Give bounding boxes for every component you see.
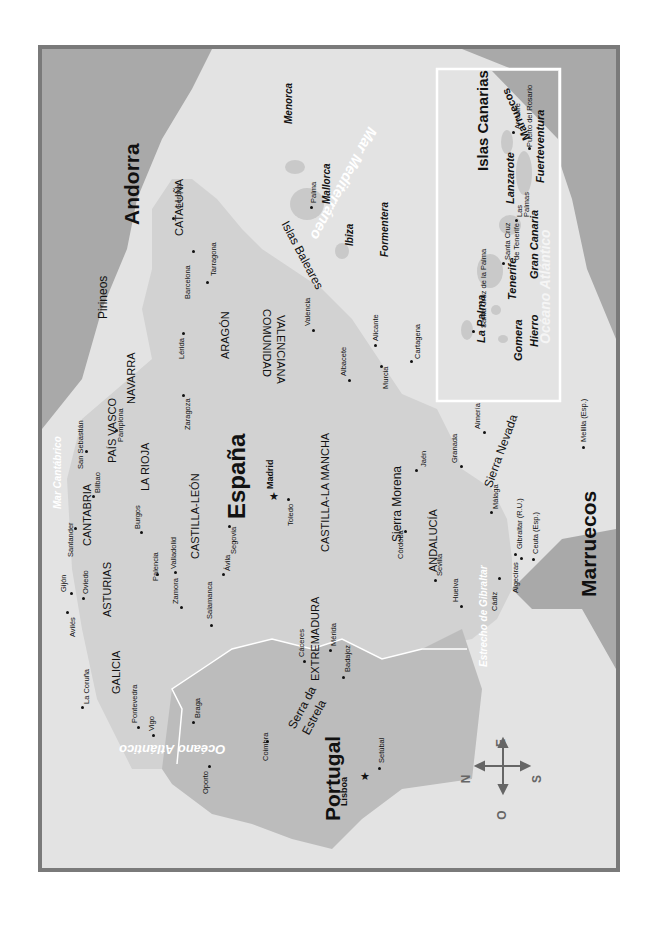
city-label-cadiz: Cádiz	[491, 592, 499, 611]
city-dot-gijon	[70, 592, 73, 595]
city-dot-oporto	[208, 765, 211, 768]
menorca-shape	[285, 160, 305, 174]
city-dot-lerida	[182, 332, 185, 335]
island-label-tenerife: Tenerife	[507, 258, 518, 300]
city-label-algeciras: Algeciras	[512, 562, 520, 593]
city-label-jaen: Jaén	[420, 451, 428, 467]
city-dot-malaga	[490, 511, 493, 514]
city-dot-la-coruna	[81, 706, 84, 709]
region-label-comunidad: COMUNIDAD	[261, 309, 272, 377]
city-label-tarragona: Tarragona	[210, 242, 218, 276]
city-label-cartagena: Cartagena	[414, 324, 422, 359]
compass-label-west: O	[496, 810, 508, 819]
city-dot-pontevedra	[137, 726, 140, 729]
city-label-setubal: Setúbal	[378, 738, 386, 763]
city-label-santa-cruz-tenerife-2: de Tenerife	[513, 223, 521, 260]
city-label-coimbra: Coimbra	[262, 733, 270, 761]
city-label-granada: Granada	[451, 434, 459, 463]
city-dot-almeria	[483, 431, 486, 434]
city-label-san-sebastian: San Sebastián	[77, 420, 85, 469]
city-dot-puerto-rosario	[528, 147, 531, 150]
city-dot-badajoz	[342, 676, 345, 679]
region-label-galicia: GALICIA	[111, 651, 122, 694]
city-dot-oviedo	[82, 597, 85, 600]
city-label-zamora: Zamora	[172, 578, 180, 604]
city-dot-palma	[310, 206, 313, 209]
city-label-lerida: Lérida	[178, 338, 186, 359]
city-dot-santa-cruz-palma	[472, 330, 475, 333]
city-dot-santa-cruz-tenerife	[502, 262, 505, 265]
city-dot-barcelona	[192, 250, 195, 253]
city-label-barcelona: Barcelona	[184, 265, 192, 299]
city-label-salamanca: Salamanca	[206, 581, 214, 619]
city-label-albacete: Albacete	[340, 347, 348, 376]
country-label-andorra: Andorra	[121, 143, 142, 225]
lanzarote-shape	[501, 130, 513, 154]
city-dot-cadiz	[498, 577, 501, 580]
city-dot-las-palmas	[515, 219, 518, 222]
city-dot-albacete	[348, 379, 351, 382]
city-dot-salamanca	[210, 624, 213, 627]
city-label-santa-cruz-palma: Santa Cruz de la Palma	[480, 249, 488, 328]
city-label-huelva: Huelva	[452, 579, 460, 602]
city-label-pamplona: Pamplona	[117, 408, 125, 442]
city-label-la-coruna: La Coruña	[83, 669, 91, 704]
city-label-arrecife: Arrecife	[514, 103, 522, 129]
city-dot-gibraltar	[514, 553, 517, 556]
compass-label-east: E	[495, 739, 507, 747]
city-dot-valladolid	[174, 571, 177, 574]
city-label-cordoba: Córdoba	[397, 530, 405, 559]
city-label-valencia: Valencia	[304, 298, 312, 326]
city-label-puerto-rosario: Puerto del Rosario	[526, 85, 534, 147]
city-dot-caceres	[303, 660, 306, 663]
city-dot-gerona	[172, 217, 175, 220]
city-label-zaragoza: Zaragoza	[184, 398, 192, 430]
compass-rose	[476, 739, 529, 793]
city-label-caceres: Cáceres	[298, 629, 306, 657]
city-dot-valencia	[312, 329, 315, 332]
island-label-gomera: Gomera	[513, 319, 524, 361]
capital-label-madrid: Madrid	[266, 459, 275, 489]
island-label-hierro: Hierro	[529, 315, 540, 347]
region-label-navarra: NAVARRA	[126, 352, 137, 404]
island-label-ibiza: Ibiza	[345, 224, 355, 246]
city-dot-zaragoza	[182, 394, 185, 397]
city-label-badajoz: Badajoz	[344, 645, 352, 672]
island-label-gran-canaria: Gran Canaria	[529, 210, 540, 279]
region-label-extremadura: EXTREMADURA	[310, 597, 321, 681]
city-label-merida: Mérida	[330, 623, 338, 646]
city-label-gerona: Gerona	[175, 184, 183, 209]
city-dot-jaen	[415, 469, 418, 472]
city-dot-cartagena	[410, 360, 413, 363]
city-label-santander: Santander	[67, 522, 75, 557]
city-dot-setubal	[378, 767, 381, 770]
hierro-shape	[498, 335, 508, 343]
city-label-oviedo: Oviedo	[82, 570, 90, 594]
city-dot-toledo	[287, 498, 290, 501]
city-label-gibraltar: Gibraltar (R.U.)	[516, 498, 524, 549]
sea-label-atlantico: Océano Atlántico	[119, 743, 225, 756]
compass-label-south: S	[531, 775, 543, 783]
city-label-vigo: Vigo	[148, 716, 156, 731]
city-dot-granada	[460, 465, 463, 468]
fuerteventura-shape	[516, 151, 532, 195]
city-label-aviles: Avilés	[69, 617, 77, 637]
city-label-burgos: Burgos	[134, 505, 142, 529]
region-label-aragon: ARAGÓN	[220, 311, 231, 359]
region-label-cantabria: CANTABRIA	[82, 484, 93, 546]
city-label-ceuta: Ceuta (Esp.)	[532, 512, 540, 554]
capital-star-lisboa: ★	[360, 771, 370, 782]
city-dot-sevilla	[434, 579, 437, 582]
city-label-toledo: Toledo	[287, 504, 295, 526]
city-label-sevilla: Sevilla	[436, 554, 444, 576]
city-label-valladolid: Valladolid	[170, 537, 178, 569]
city-label-murcia: Murcia	[382, 366, 390, 389]
capital-star-madrid: ★	[269, 491, 279, 502]
mountain-label-pirineos: Pirineos	[97, 276, 109, 319]
city-dot-melilla	[582, 446, 585, 449]
capital-label-lisboa: Lisboa	[340, 777, 349, 806]
city-label-melilla: Melilla (Esp.)	[580, 399, 588, 442]
sea-label-cantabrico: Mar Cantábrico	[53, 436, 63, 509]
city-dot-arrecife	[512, 131, 515, 134]
city-label-almeria: Almería	[474, 403, 482, 429]
